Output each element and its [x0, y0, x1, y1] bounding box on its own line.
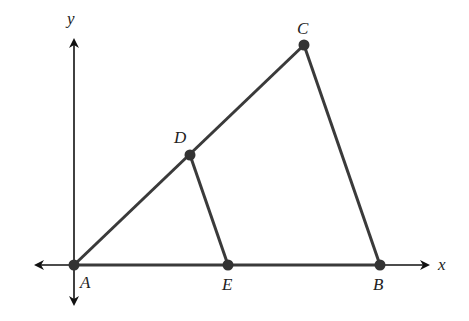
y-axis-label: y — [67, 10, 75, 27]
diagram-canvas — [0, 0, 469, 321]
point-a-label: A — [80, 274, 90, 291]
point-c-label: C — [297, 20, 308, 37]
point-b — [375, 260, 386, 271]
point-e — [223, 260, 234, 271]
geometry-diagram: y x A B C D E — [0, 0, 469, 321]
point-b-label: B — [373, 276, 383, 293]
segment-de — [190, 155, 228, 265]
point-c — [299, 40, 310, 51]
segment-cb — [304, 45, 380, 265]
point-a — [69, 260, 80, 271]
point-d-label: D — [174, 129, 186, 146]
point-d — [185, 150, 196, 161]
point-e-label: E — [222, 276, 232, 293]
x-axis-label: x — [438, 256, 446, 273]
